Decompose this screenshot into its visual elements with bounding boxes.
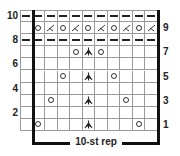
row-number: 4 — [4, 83, 18, 94]
stitch-cell — [58, 95, 71, 107]
stitch-cell — [70, 22, 83, 34]
stitch-cell — [58, 71, 71, 83]
stitch-cell — [120, 58, 133, 70]
stitch-cell — [20, 71, 33, 83]
stitch-cell — [83, 83, 96, 95]
stitch-cell — [95, 83, 108, 95]
repeat-label: 10-st rep — [70, 136, 122, 147]
stitch-cell — [133, 95, 146, 107]
yarn-over-icon — [98, 49, 104, 55]
stitch-cell — [45, 58, 58, 70]
repeat-bracket-right — [122, 142, 160, 145]
stitch-cell — [120, 34, 133, 46]
yarn-over-icon — [136, 25, 142, 31]
stitch-cell — [45, 107, 58, 119]
stitch-cell — [120, 107, 133, 119]
stitch-cell — [20, 10, 33, 22]
stitch-cell — [83, 34, 96, 46]
purl-symbol — [97, 39, 105, 41]
stitch-cell — [58, 119, 71, 131]
stitch-cell — [108, 34, 121, 46]
stitch-grid — [20, 10, 158, 131]
stitch-cell — [95, 107, 108, 119]
stitch-cell — [83, 95, 96, 107]
stitch-cell — [58, 107, 71, 119]
stitch-cell — [95, 46, 108, 58]
k2tog-icon — [71, 24, 80, 32]
purl-symbol — [59, 39, 67, 41]
purl-symbol — [147, 15, 155, 17]
stitch-cell — [45, 22, 58, 34]
stitch-cell — [20, 119, 33, 131]
stitch-cell — [58, 34, 71, 46]
yarn-over-icon — [123, 97, 129, 103]
double-decrease-icon — [84, 47, 93, 56]
purl-symbol — [47, 15, 55, 17]
stitch-cell — [120, 83, 133, 95]
stitch-cell — [120, 46, 133, 58]
stitch-cell — [45, 46, 58, 58]
stitch-cell — [108, 95, 121, 107]
stitch-cell — [45, 95, 58, 107]
stitch-cell — [133, 34, 146, 46]
stitch-cell — [20, 95, 33, 107]
repeat-bracket-left — [32, 142, 70, 145]
stitch-cell — [108, 107, 121, 119]
stitch-cell — [120, 22, 133, 34]
stitch-cell — [95, 95, 108, 107]
row-number: 6 — [4, 58, 18, 69]
purl-symbol — [22, 39, 30, 41]
purl-symbol — [122, 39, 130, 41]
stitch-cell — [83, 71, 96, 83]
stitch-cell — [45, 34, 58, 46]
stitch-cell — [83, 22, 96, 34]
purl-symbol — [22, 15, 30, 17]
stitch-cell — [133, 22, 146, 34]
purl-symbol — [135, 39, 143, 41]
yarn-over-icon — [73, 49, 79, 55]
purl-symbol — [34, 15, 42, 17]
double-decrease-icon — [84, 120, 93, 129]
row-number: 9 — [163, 22, 177, 33]
k2tog-icon — [122, 24, 131, 32]
stitch-cell — [108, 119, 121, 131]
yarn-over-icon — [136, 121, 142, 127]
purl-symbol — [72, 15, 80, 17]
stitch-cell — [108, 71, 121, 83]
stitch-cell — [108, 58, 121, 70]
stitch-cell — [83, 58, 96, 70]
stitch-cell — [83, 46, 96, 58]
repeat-left-line — [32, 10, 35, 145]
stitch-cell — [70, 107, 83, 119]
purl-symbol — [122, 15, 130, 17]
knitting-chart: 10-st rep 10 8 6 4 2 9 7 5 3 1 — [0, 0, 180, 156]
purl-symbol — [59, 15, 67, 17]
yarn-over-icon — [60, 25, 66, 31]
purl-symbol — [47, 39, 55, 41]
row-number: 3 — [163, 95, 177, 106]
stitch-cell — [83, 107, 96, 119]
stitch-cell — [133, 58, 146, 70]
stitch-cell — [133, 83, 146, 95]
row-number: 2 — [4, 107, 18, 118]
row-number: 1 — [163, 119, 177, 130]
stitch-cell — [70, 34, 83, 46]
stitch-cell — [120, 10, 133, 22]
purl-symbol — [135, 15, 143, 17]
stitch-cell — [108, 10, 121, 22]
stitch-cell — [95, 58, 108, 70]
yarn-over-icon — [111, 73, 117, 79]
stitch-cell — [70, 83, 83, 95]
stitch-cell — [83, 119, 96, 131]
stitch-cell — [45, 83, 58, 95]
stitch-cell — [133, 10, 146, 22]
stitch-cell — [133, 119, 146, 131]
stitch-cell — [120, 95, 133, 107]
stitch-cell — [70, 119, 83, 131]
row-number: 8 — [4, 34, 18, 45]
purl-symbol — [34, 39, 42, 41]
k2tog-icon — [147, 24, 156, 32]
stitch-cell — [133, 46, 146, 58]
purl-symbol — [147, 39, 155, 41]
purl-symbol — [72, 39, 80, 41]
